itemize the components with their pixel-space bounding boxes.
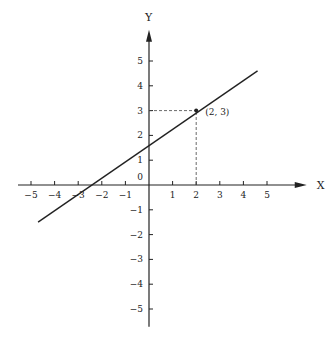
y-tick-label: −4 bbox=[130, 279, 144, 289]
y-tick-label: 5 bbox=[137, 56, 143, 66]
x-tick-label: 3 bbox=[217, 190, 223, 200]
x-axis-label: X bbox=[317, 179, 325, 192]
data-point bbox=[194, 109, 198, 113]
y-tick-label: −2 bbox=[130, 230, 143, 240]
x-tick-label: 4 bbox=[241, 190, 247, 200]
coordinate-plane: XY−5−4−3−2−112345−5−4−3−2−1123450(2, 3) bbox=[0, 0, 328, 346]
x-axis-arrow-icon bbox=[295, 182, 307, 188]
y-tick-label: −5 bbox=[130, 304, 144, 314]
y-tick-label: 4 bbox=[137, 81, 143, 91]
x-tick-label: 2 bbox=[193, 190, 199, 200]
y-axis-arrow-icon bbox=[146, 30, 152, 42]
y-tick-label: 3 bbox=[137, 106, 143, 116]
y-tick-label: −3 bbox=[130, 254, 144, 264]
y-tick-label: 1 bbox=[137, 155, 143, 165]
x-tick-label: −4 bbox=[48, 190, 62, 200]
x-tick-label: 5 bbox=[264, 190, 270, 200]
y-tick-label: 2 bbox=[137, 130, 143, 140]
point-label: (2, 3) bbox=[205, 107, 229, 117]
x-tick-label: −1 bbox=[119, 190, 132, 200]
origin-label: 0 bbox=[137, 172, 143, 182]
data-line bbox=[38, 71, 257, 222]
x-tick-label: −5 bbox=[24, 190, 38, 200]
y-axis-label: Y bbox=[144, 11, 153, 24]
y-tick-label: −1 bbox=[130, 205, 143, 215]
x-tick-label: 1 bbox=[170, 190, 176, 200]
x-tick-label: −2 bbox=[95, 190, 108, 200]
